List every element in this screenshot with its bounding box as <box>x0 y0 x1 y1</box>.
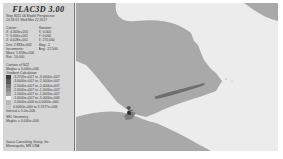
contour-legend: -3.2705e+007 to -3.0000e+007 -3.0000e+00… <box>6 75 71 109</box>
app-title: FLAC3D 3.00 <box>6 5 71 14</box>
contour-plot-svg <box>76 3 278 151</box>
rot-value: Rot.: 10.000 <box>6 55 39 59</box>
contour-interval: Interval = 5.0e+006 <box>6 109 71 113</box>
sel-magfac: Magfac = 0.000e+000 <box>6 119 71 123</box>
view-info: Center: X: 4.303e+001 Y: 5.000e+001 Z: 4… <box>6 26 71 59</box>
legend-panel: FLAC3D 3.00 Step 8011 06 Model Perspecti… <box>3 3 75 151</box>
ang-value: Ang.: 22.500 <box>39 47 72 51</box>
flac3d-figure: FLAC3D 3.00 Step 8011 06 Model Perspecti… <box>3 3 278 151</box>
contour-plot <box>76 3 278 151</box>
footer: Itasca Consulting Group, Inc. Minneapoli… <box>6 140 50 148</box>
company-location: Minneapolis, MN USA <box>6 144 50 148</box>
